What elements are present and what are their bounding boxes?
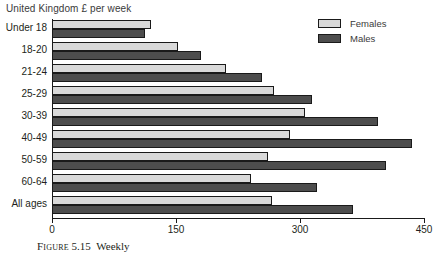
- bar-males: [52, 73, 262, 82]
- bar-females: [52, 64, 226, 73]
- caption-prefix: Figure: [37, 240, 69, 252]
- x-tick-mark: [52, 219, 53, 223]
- bar-females: [52, 196, 272, 205]
- bar-group: 60-64: [52, 174, 424, 192]
- category-label: Under 18: [6, 22, 47, 34]
- chart-title: United Kingdom £ per week: [6, 3, 131, 15]
- caption-number: 5.15: [72, 240, 91, 252]
- category-label: 60-64: [21, 176, 47, 188]
- x-tick-mark: [424, 219, 425, 223]
- bar-males: [52, 95, 312, 104]
- category-label: 18-20: [21, 44, 47, 56]
- x-axis-line: [52, 218, 425, 219]
- bar-group: 25-29: [52, 86, 424, 104]
- category-label: 25-29: [21, 88, 47, 100]
- bar-group: 21-24: [52, 64, 424, 82]
- bar-males: [52, 51, 201, 60]
- bar-females: [52, 174, 251, 183]
- bar-group: All ages: [52, 196, 424, 214]
- bar-group: 40-49: [52, 130, 424, 148]
- bar-males: [52, 139, 412, 148]
- bar-group: Under 18: [52, 20, 424, 38]
- category-label: 50-59: [21, 154, 47, 166]
- category-label: 21-24: [21, 66, 47, 78]
- bar-males: [52, 117, 378, 126]
- bar-females: [52, 42, 178, 51]
- bar-males: [52, 205, 353, 214]
- x-tick-label: 150: [168, 224, 185, 236]
- bar-females: [52, 108, 305, 117]
- bar-females: [52, 86, 274, 95]
- category-label: 30-39: [21, 110, 47, 122]
- x-tick-mark: [176, 219, 177, 223]
- bar-males: [52, 29, 145, 38]
- caption-text: Weekly: [96, 240, 129, 252]
- plot-area: 0150300450 Under 1818-2021-2425-2930-394…: [52, 19, 424, 218]
- x-tick-label: 300: [292, 224, 309, 236]
- bar-group: 18-20: [52, 42, 424, 60]
- bar-group: 30-39: [52, 108, 424, 126]
- x-tick-label: 450: [416, 224, 433, 236]
- category-label: 40-49: [21, 132, 47, 144]
- bar-females: [52, 152, 268, 161]
- figure-container: United Kingdom £ per week Females Males …: [0, 0, 438, 259]
- bar-males: [52, 183, 317, 192]
- bar-females: [52, 130, 290, 139]
- figure-caption: Figure 5.15 Weekly: [37, 240, 130, 253]
- x-tick-label: 0: [49, 224, 55, 236]
- category-label: All ages: [11, 198, 47, 210]
- bar-males: [52, 161, 386, 170]
- bar-group: 50-59: [52, 152, 424, 170]
- x-tick-mark: [300, 219, 301, 223]
- bar-females: [52, 20, 151, 29]
